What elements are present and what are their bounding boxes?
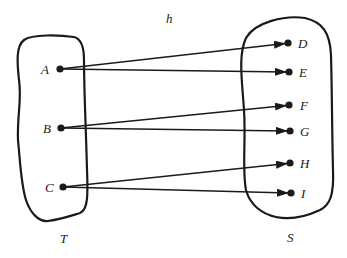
point-g xyxy=(286,127,293,134)
point-d xyxy=(284,39,291,46)
mapping-edges xyxy=(60,44,288,194)
label-f: F xyxy=(299,98,309,113)
edge-a-to-d xyxy=(60,44,285,70)
label-c: C xyxy=(45,180,54,195)
function-label-h: h xyxy=(166,11,173,26)
edge-c-to-i xyxy=(63,187,288,193)
label-d: D xyxy=(297,36,308,51)
point-h xyxy=(286,159,293,166)
point-e xyxy=(285,68,292,75)
set-label-s: S xyxy=(287,230,294,245)
label-i: I xyxy=(300,186,306,201)
edge-b-to-g xyxy=(61,128,287,131)
edge-c-to-h xyxy=(63,164,287,188)
point-i xyxy=(287,189,294,196)
label-e: E xyxy=(298,65,307,80)
set-label-t: T xyxy=(60,231,68,246)
label-g: G xyxy=(300,124,310,139)
codomain-elements: D E F G H I xyxy=(284,36,310,201)
domain-elements: A B C xyxy=(40,62,67,195)
edge-a-to-e xyxy=(60,69,286,72)
point-b xyxy=(57,124,64,131)
label-h: H xyxy=(299,156,310,171)
point-f xyxy=(285,101,292,108)
label-b: B xyxy=(43,121,51,136)
point-c xyxy=(59,183,66,190)
label-a: A xyxy=(40,62,49,77)
edge-b-to-f xyxy=(61,106,286,129)
function-mapping-diagram: h A B C D E F G H I T S xyxy=(0,0,347,258)
point-a xyxy=(56,65,63,72)
